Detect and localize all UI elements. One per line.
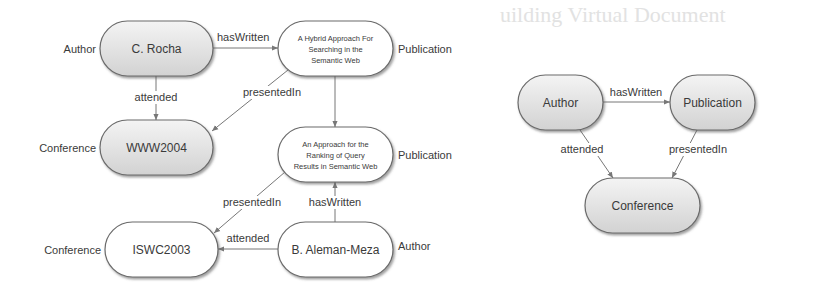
node-label: Results in Semantic Web — [294, 162, 378, 171]
edge-label: presentedIn — [669, 143, 727, 155]
edge-label: attended — [135, 91, 178, 103]
node-label: Ranking of Query — [306, 151, 365, 160]
node-type-label: Conference — [44, 244, 101, 256]
node-www2004[interactable]: WWW2004 — [100, 120, 213, 175]
edge-label: attended — [227, 232, 270, 244]
background-bleed-text: uilding Virtual Document — [500, 2, 726, 27]
node-label: WWW2004 — [126, 141, 187, 155]
diagram-canvas: uilding Virtual Document C. RochaA Hybri… — [0, 0, 828, 298]
node-label: ISWC2003 — [132, 243, 190, 257]
node-type-label: Publication — [398, 43, 452, 55]
node-label: Author — [543, 96, 578, 110]
edge-label: hasWritten — [309, 196, 361, 208]
node-rocha[interactable]: C. Rocha — [100, 21, 213, 76]
node-label: Searching in the — [308, 45, 362, 54]
edge-line — [212, 70, 288, 131]
edge-label: hasWritten — [610, 86, 662, 98]
node-label: C. Rocha — [131, 42, 181, 56]
node-s-author[interactable]: Author — [518, 75, 603, 130]
node-label: B. Aleman-Meza — [291, 243, 379, 257]
node-label: Conference — [611, 199, 673, 213]
node-type-label: Author — [64, 43, 97, 55]
node-label: An Approach for the — [302, 140, 368, 149]
edge-hybrid-to-www2004 — [212, 70, 288, 131]
node-type-label: Author — [398, 240, 431, 252]
node-label: A Hybrid Approach For — [298, 34, 374, 43]
edge-label: attended — [561, 143, 604, 155]
node-iswc2003[interactable]: ISWC2003 — [105, 222, 218, 277]
node-ranking[interactable]: An Approach for theRanking of QueryResul… — [278, 127, 393, 182]
node-hybrid[interactable]: A Hybrid Approach ForSearching in theSem… — [278, 21, 393, 76]
node-label: Publication — [683, 96, 742, 110]
node-aleman[interactable]: B. Aleman-Meza — [278, 222, 393, 277]
edge-label: hasWritten — [217, 31, 269, 43]
node-label: Semantic Web — [311, 56, 360, 65]
edge-label: presentedIn — [223, 196, 281, 208]
node-type-label: Publication — [398, 149, 452, 161]
node-type-label: Conference — [39, 142, 96, 154]
edge-label: presentedIn — [243, 86, 301, 98]
node-s-conference[interactable]: Conference — [585, 178, 700, 233]
node-s-publication[interactable]: Publication — [670, 75, 755, 130]
